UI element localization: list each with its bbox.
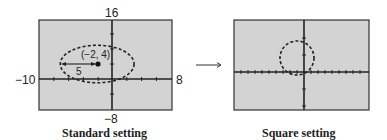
transition-arrow-icon	[196, 63, 221, 68]
center-point	[95, 61, 100, 66]
ymin-label: −8	[104, 113, 118, 125]
xmin-label: −10	[15, 74, 35, 86]
standard-setting-caption: Standard setting	[62, 127, 147, 139]
radius-label: 5	[76, 67, 82, 77]
ymax-label: 16	[105, 7, 118, 19]
square-setting-caption: Square setting	[262, 127, 335, 139]
square-setting-screen	[234, 20, 369, 110]
center-label: (−2, 4)	[81, 50, 110, 60]
xmax-label: 8	[176, 74, 183, 86]
standard-setting-screen	[39, 20, 172, 110]
figure-canvas	[0, 0, 387, 140]
